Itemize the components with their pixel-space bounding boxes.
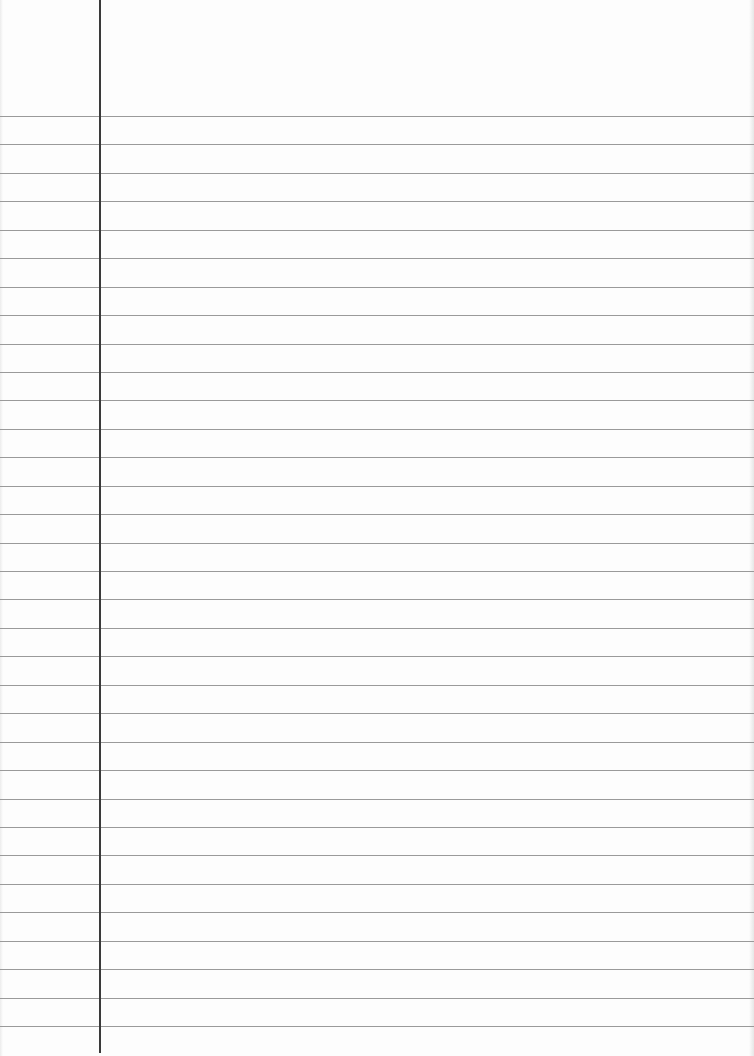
ruled-line: [0, 571, 754, 572]
ruled-line: [0, 372, 754, 373]
ruled-line: [0, 599, 754, 600]
ruled-line: [0, 912, 754, 913]
ruled-line: [0, 144, 754, 145]
ruled-line: [0, 457, 754, 458]
ruled-line: [0, 486, 754, 487]
ruled-line: [0, 344, 754, 345]
paper-right-edge-shadow: [749, 0, 754, 1056]
ruled-line: [0, 116, 754, 117]
ruled-line: [0, 656, 754, 657]
ruled-line: [0, 287, 754, 288]
ruled-line: [0, 429, 754, 430]
ruled-line: [0, 969, 754, 970]
vertical-margin-line: [99, 0, 101, 1053]
ruled-line: [0, 543, 754, 544]
ruled-line: [0, 742, 754, 743]
ruled-line: [0, 258, 754, 259]
ruled-line: [0, 628, 754, 629]
ruled-line: [0, 685, 754, 686]
ruled-line: [0, 230, 754, 231]
ruled-line: [0, 400, 754, 401]
ruled-line: [0, 315, 754, 316]
ruled-line: [0, 1026, 754, 1027]
lined-paper-sheet: [0, 0, 754, 1056]
ruled-line: [0, 998, 754, 999]
ruled-line: [0, 514, 754, 515]
ruled-line: [0, 799, 754, 800]
ruled-line: [0, 827, 754, 828]
ruled-line: [0, 855, 754, 856]
ruled-line: [0, 201, 754, 202]
ruled-line: [0, 173, 754, 174]
ruled-line: [0, 713, 754, 714]
paper-left-edge-shadow: [0, 0, 3, 1056]
ruled-line: [0, 941, 754, 942]
ruled-line: [0, 884, 754, 885]
ruled-line: [0, 770, 754, 771]
